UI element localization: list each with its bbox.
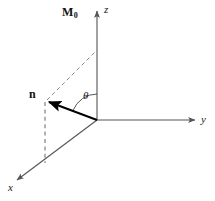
physics-diagram-figure: M0 z y x n θ (0, 0, 215, 201)
n-vector-line (49, 102, 97, 120)
projection-line-to-z-axis (47, 50, 97, 100)
n-vector-label: n (29, 88, 36, 100)
z-axis-label: z (104, 4, 108, 15)
magnetization-label: M0 (62, 6, 78, 20)
x-axis-line (17, 120, 97, 180)
x-axis-label: x (8, 182, 13, 193)
theta-angle-label: θ (83, 90, 88, 101)
y-axis-label: y (201, 114, 206, 125)
